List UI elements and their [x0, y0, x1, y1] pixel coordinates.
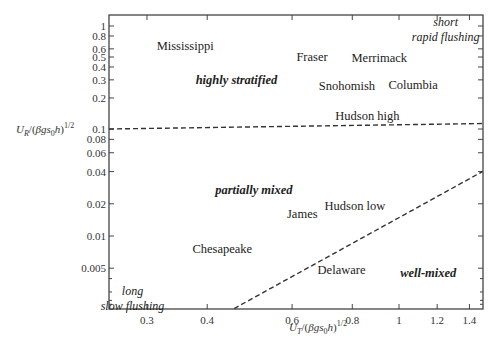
x-tick-label: 1.4	[463, 314, 477, 326]
y-tick-label: 0.2	[92, 92, 106, 104]
estuary-label: Delaware	[318, 263, 366, 277]
y-tick-label: 0.8	[92, 30, 106, 42]
estuary-label: James	[287, 207, 318, 221]
regime-label: highly stratified	[196, 73, 278, 87]
estuary-label: Hudson high	[335, 109, 400, 123]
x-tick-label: 0.8	[345, 314, 359, 326]
y-tick-label: 0.08	[87, 133, 107, 145]
estuary-label: Fraser	[296, 50, 328, 64]
x-tick-label: 0.4	[200, 314, 214, 326]
boundary-line	[109, 124, 482, 129]
flushing-annotation: slow flushing	[101, 299, 165, 313]
y-tick-label: 0.01	[87, 230, 106, 242]
y-tick-label: 0.4	[92, 61, 106, 73]
y-tick-label: 0.3	[92, 74, 106, 86]
x-tick-label: 1	[396, 314, 402, 326]
y-tick-label: 0.06	[87, 147, 107, 159]
flushing-annotation: rapid flushing	[412, 30, 480, 44]
estuary-label: Hudson low	[324, 199, 385, 213]
x-tick-label: 1.2	[430, 314, 444, 326]
flushing-annotation: short	[433, 15, 458, 29]
estuary-label: Snohomish	[319, 79, 376, 93]
estuary-label: Chesapeake	[192, 242, 252, 256]
y-tick-label: 0.04	[87, 166, 107, 178]
regime-label: well-mixed	[400, 266, 457, 280]
x-tick-label: 0.3	[140, 314, 154, 326]
y-axis-label: UR/(βgs0h)1/2	[16, 121, 74, 138]
estuary-classification-chart: 0.30.40.60.811.21.410.80.60.50.40.30.20.…	[0, 0, 498, 354]
y-tick-label: 0.02	[87, 198, 106, 210]
estuary-label: Mississippi	[157, 39, 214, 53]
estuary-label: Merrimack	[351, 51, 407, 65]
regime-label: partially mixed	[214, 183, 293, 197]
estuary-label: Columbia	[389, 78, 439, 92]
flushing-annotation: long	[122, 284, 143, 298]
y-tick-label: 0.005	[81, 262, 106, 274]
